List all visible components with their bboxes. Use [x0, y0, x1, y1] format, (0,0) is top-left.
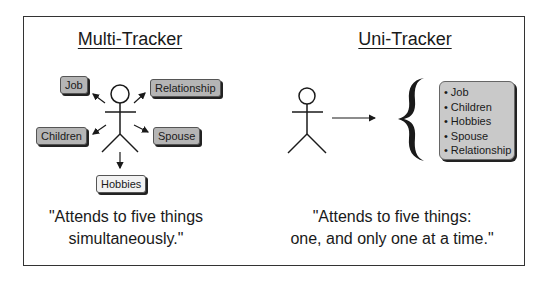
uni-tracker-list: Job Children Hobbies Spouse Relationship: [444, 85, 514, 158]
tag-hobbies: Hobbies: [96, 175, 146, 193]
list-item: Job: [444, 85, 514, 100]
list-item: Hobbies: [444, 114, 514, 129]
quote-line-1: "Attends to five things:: [290, 206, 493, 228]
multi-tracker-quote: "Attends to five things simultaneously.": [49, 206, 203, 250]
uni-tracker-quote: "Attends to five things: one, and only o…: [290, 206, 493, 250]
list-item: Children: [444, 100, 514, 115]
uni-tracker-list-box: Job Children Hobbies Spouse Relationship: [439, 81, 515, 160]
uni-tracker-stick-figure: [288, 88, 326, 153]
curly-brace: [398, 78, 424, 161]
tag-job: Job: [60, 76, 88, 94]
quote-line-2: one, and only one at a time.": [290, 228, 493, 250]
list-item: Relationship: [444, 143, 514, 158]
uni-tracker-title: Uni-Tracker: [358, 29, 451, 50]
list-item: Spouse: [444, 129, 514, 144]
multi-tracker-stick-figure: [102, 85, 138, 152]
quote-line-2: simultaneously.": [49, 228, 203, 250]
quote-line-1: "Attends to five things: [49, 206, 203, 228]
tag-children: Children: [36, 127, 87, 145]
multi-tracker-title: Multi-Tracker: [78, 29, 182, 50]
tag-relationship: Relationship: [150, 79, 221, 97]
tag-spouse: Spouse: [153, 127, 200, 145]
